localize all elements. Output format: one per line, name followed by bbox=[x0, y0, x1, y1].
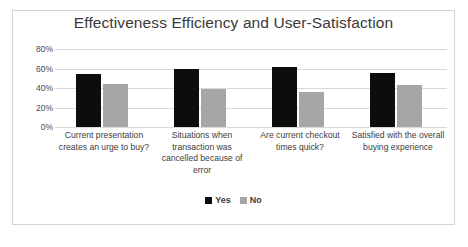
chart-title: Effectiveness Efficiency and User-Satisf… bbox=[13, 14, 454, 32]
gridline bbox=[55, 127, 447, 128]
y-axis-tick-label: 80% bbox=[21, 45, 53, 54]
bar-yes[interactable] bbox=[76, 74, 101, 127]
bar-group bbox=[153, 49, 251, 127]
legend-item-yes[interactable]: Yes bbox=[205, 195, 231, 205]
chart-legend: YesNo bbox=[13, 195, 454, 205]
legend-swatch-icon bbox=[205, 197, 212, 204]
bar-yes[interactable] bbox=[370, 73, 395, 127]
legend-swatch-icon bbox=[240, 197, 247, 204]
bar-no[interactable] bbox=[103, 84, 128, 127]
x-axis-label: Satisfied with the overall buying experi… bbox=[349, 130, 447, 153]
y-axis: 0%20%40%60%80% bbox=[21, 49, 53, 127]
y-axis-tick-label: 0% bbox=[21, 123, 53, 132]
bar-group bbox=[55, 49, 153, 127]
bar-yes[interactable] bbox=[174, 69, 199, 128]
bar-no[interactable] bbox=[299, 92, 324, 127]
x-axis-label: Situations when transaction was cancelle… bbox=[153, 130, 251, 176]
bars-layer bbox=[55, 49, 447, 127]
y-axis-tick-label: 20% bbox=[21, 103, 53, 112]
bar-no[interactable] bbox=[201, 89, 226, 127]
chart-container: Effectiveness Efficiency and User-Satisf… bbox=[12, 10, 455, 225]
legend-label: Yes bbox=[215, 195, 231, 205]
x-axis-category-labels: Current presentation creates an urge to … bbox=[55, 130, 447, 192]
bar-group bbox=[251, 49, 349, 127]
y-axis-tick-label: 40% bbox=[21, 84, 53, 93]
legend-label: No bbox=[250, 195, 262, 205]
bar-group bbox=[349, 49, 447, 127]
bar-no[interactable] bbox=[397, 85, 422, 127]
x-axis-label: Are current checkout times quick? bbox=[251, 130, 349, 153]
bar-yes[interactable] bbox=[272, 67, 297, 127]
legend-item-no[interactable]: No bbox=[240, 195, 262, 205]
x-axis-label: Current presentation creates an urge to … bbox=[55, 130, 153, 153]
y-axis-tick-label: 60% bbox=[21, 64, 53, 73]
